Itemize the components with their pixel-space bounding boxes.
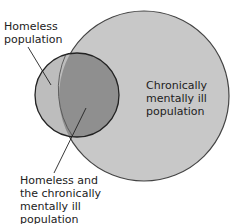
intersection-label-line: population — [20, 213, 101, 224]
mentally-ill-label: Chronically mentally ill population — [146, 79, 207, 118]
intersection-label: Homeless and the chronically mentally il… — [20, 174, 101, 224]
mentally-ill-label-line: mentally ill — [146, 92, 207, 105]
mentally-ill-label-line: population — [146, 105, 207, 118]
intersection-label-line: the chronically — [20, 187, 101, 200]
intersection-label-line: mentally ill — [20, 200, 101, 213]
homeless-label: Homeless population — [4, 20, 63, 46]
mentally-ill-label-line: Chronically — [146, 79, 207, 92]
homeless-label-line: Homeless — [4, 20, 63, 33]
intersection-label-line: Homeless and — [20, 174, 101, 187]
homeless-label-line: population — [4, 33, 63, 46]
